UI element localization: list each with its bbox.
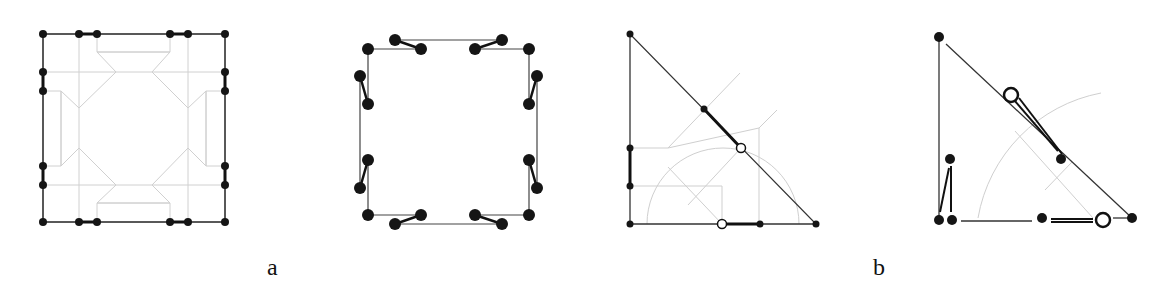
guide-lines (43, 34, 225, 222)
figure (0, 0, 1165, 292)
panel-a-right (354, 34, 543, 230)
mesh-nodes (354, 34, 543, 230)
panel-b-right (934, 32, 1137, 227)
label-a: a (267, 254, 278, 281)
mesh-nodes (39, 30, 229, 226)
panel-b-left (627, 31, 820, 229)
label-b: b (873, 254, 885, 281)
guide-lines (630, 73, 799, 224)
guide-lines (978, 93, 1101, 218)
panel-a-left (39, 30, 229, 226)
